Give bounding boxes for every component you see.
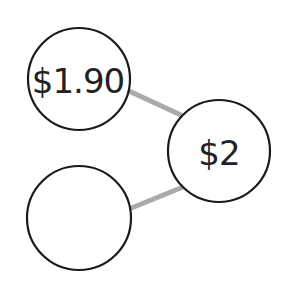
node-part-top: $1.90 xyxy=(28,28,130,130)
number-bond-diagram: $1.90 $2 xyxy=(0,0,281,296)
edge-bottom-to-whole xyxy=(129,187,183,209)
node-part-bottom[interactable] xyxy=(27,166,131,270)
circle-part-bottom[interactable] xyxy=(27,166,131,270)
edge-top-to-whole xyxy=(129,91,183,116)
node-whole: $2 xyxy=(168,100,270,202)
label-part-top: $1.90 xyxy=(32,61,124,101)
label-whole: $2 xyxy=(198,133,239,173)
